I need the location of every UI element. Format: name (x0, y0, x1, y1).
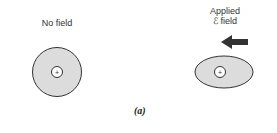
figure-caption: (a) (134, 105, 146, 116)
field-arrow-icon (221, 35, 248, 49)
unpolarized-atom: + (33, 48, 82, 97)
plus-sign-icon: + (218, 69, 222, 76)
plus-sign-icon: + (55, 69, 59, 76)
polarized-atom: + (195, 56, 253, 88)
